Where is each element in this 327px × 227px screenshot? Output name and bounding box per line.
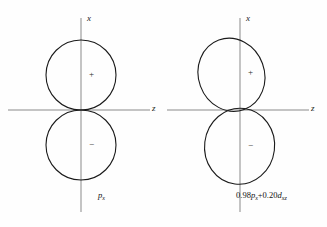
caption-coefficient-d: 0.20 [263, 190, 278, 200]
panel-caption-right: 0.98px+0.20dxz [236, 191, 287, 201]
lower-lobe-sign: − [248, 141, 253, 150]
pure-p-orbital-plot [0, 0, 163, 227]
vertical-axis-label: x [246, 14, 250, 23]
horizontal-axis-label: z [311, 104, 315, 113]
caption-d-subscript: xz [282, 195, 287, 201]
caption-coefficient-p: 0.98 [236, 190, 251, 200]
upper-lobe-outline [188, 29, 275, 121]
horizontal-axis-label: z [152, 104, 156, 113]
panel-hybrid-pd-orbital: x z + − 0.98px+0.20dxz [164, 0, 327, 227]
upper-lobe-sign: + [248, 68, 253, 77]
lower-lobe-sign: − [89, 140, 94, 149]
upper-lobe-sign: + [89, 70, 94, 79]
orbital-figure: x z + − px x z + − 0.98px+0.20dxz [0, 0, 327, 227]
caption-orbital-subscript: x [102, 195, 105, 201]
vertical-axis-label: x [87, 14, 91, 23]
panel-pure-p-orbital: x z + − px [0, 0, 163, 227]
panel-caption-left: px [98, 191, 105, 201]
